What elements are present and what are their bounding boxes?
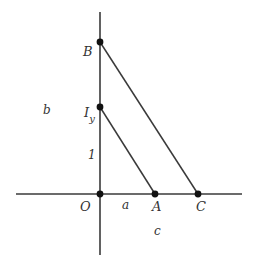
label-iy: Iy: [83, 105, 95, 124]
point-o: [97, 191, 104, 198]
point-c: [195, 191, 202, 198]
point-a: [152, 191, 159, 198]
label-b: B: [82, 44, 93, 59]
label-o: O: [80, 199, 91, 214]
label-c: C: [196, 199, 206, 214]
segment-b-c: [100, 42, 198, 194]
annotation-b: b: [43, 103, 51, 117]
point-b: [97, 39, 104, 46]
annotation-one: 1: [88, 148, 96, 162]
annotation-c: c: [154, 224, 161, 238]
label-a: A: [151, 199, 161, 214]
point-iy: [97, 104, 104, 111]
segment-iy-a: [100, 107, 155, 194]
annotation-a: a: [122, 198, 129, 212]
geometry-diagram: O A C B Iy b 1 a c: [0, 0, 255, 270]
label-iy-subscript: y: [88, 113, 95, 124]
